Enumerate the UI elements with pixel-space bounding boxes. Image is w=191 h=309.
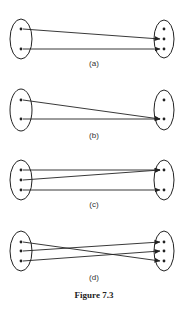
panel-c: (c) [10, 160, 174, 209]
domain-element [20, 250, 23, 253]
domain-element [20, 28, 23, 31]
codomain-element [163, 241, 166, 244]
codomain-element [163, 260, 166, 263]
domain-set-ellipse [10, 89, 32, 131]
figure-diagram: (a) (b) (c) ( [0, 0, 191, 309]
codomain-element [163, 118, 166, 121]
domain-element [20, 48, 23, 51]
mapping-arrow [23, 29, 160, 39]
domain-set-ellipse [10, 19, 32, 59]
panel-label: (b) [89, 131, 99, 140]
mapping-arrow [23, 242, 160, 251]
panel-b: (b) [10, 89, 174, 140]
codomain-element [163, 48, 166, 51]
panel-d: (d) [10, 231, 174, 282]
mapping-arrow [23, 170, 160, 180]
codomain-element [163, 99, 166, 102]
domain-element [20, 241, 23, 244]
codomain-element [163, 28, 166, 31]
domain-element [20, 99, 23, 102]
panel-label: (c) [89, 200, 99, 209]
codomain-element [163, 189, 166, 192]
codomain-element [163, 169, 166, 172]
codomain-set-ellipse [154, 90, 174, 130]
domain-element [20, 179, 23, 182]
codomain-set-ellipse [154, 160, 174, 200]
mapping-arrow [23, 100, 160, 119]
domain-element [20, 189, 23, 192]
panel-label: (d) [89, 273, 99, 282]
mapping-arrow [23, 242, 160, 261]
domain-element [20, 169, 23, 172]
domain-element [20, 118, 23, 121]
codomain-element [163, 38, 166, 41]
mapping-arrow [23, 251, 160, 261]
domain-element [20, 260, 23, 263]
figure-caption: Figure 7.3 [75, 290, 114, 300]
codomain-element [163, 250, 166, 253]
panel-label: (a) [89, 59, 99, 68]
panel-a: (a) [10, 19, 174, 68]
